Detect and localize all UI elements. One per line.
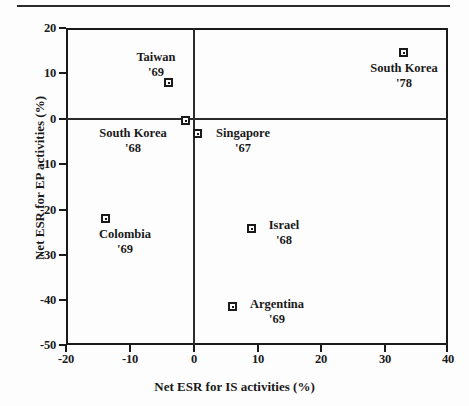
point-label-country: South Korea [370, 61, 438, 76]
y-axis-title: Net ESR for EP activities (%) [32, 48, 48, 308]
x-tick-3 [257, 345, 259, 352]
top-horizontal-rule [17, 5, 450, 7]
point-label-year: '68 [99, 141, 167, 156]
x-tick-label-5: 30 [365, 352, 405, 367]
data-point-south-korea-78 [399, 48, 408, 57]
point-label-argentina-69: Argentina '69 [250, 297, 304, 327]
data-point-israel-68 [247, 224, 256, 233]
point-label-year: '69 [250, 312, 304, 327]
data-point-south-korea-68 [181, 116, 190, 125]
x-tick-6 [446, 345, 448, 352]
x-axis-title: Net ESR for IS activities (%) [0, 379, 469, 395]
x-tick-1 [129, 345, 131, 352]
x-tick-4 [320, 345, 322, 352]
x-tick-5 [384, 345, 386, 352]
y-tick-6 [59, 299, 66, 301]
point-label-year: '69 [99, 242, 151, 257]
x-tick-label-3: 10 [238, 352, 278, 367]
point-label-year: '78 [370, 76, 438, 91]
scatter-plot-figure: -20 -10 0 10 20 30 40 20 10 0 -10 -20 -3… [0, 0, 469, 406]
zero-line-vertical [193, 28, 195, 345]
point-label-israel-68: Israel '68 [269, 218, 300, 248]
point-label-country: Singapore [216, 126, 270, 141]
y-tick-label-7: -50 [22, 338, 56, 353]
zero-line-horizontal [66, 118, 448, 120]
x-tick-label-1: -10 [110, 352, 150, 367]
x-tick-label-6: 40 [428, 352, 468, 367]
point-label-country: Colombia [99, 227, 151, 242]
x-tick-label-4: 20 [301, 352, 341, 367]
point-label-country: Argentina [250, 297, 304, 312]
y-tick-4 [59, 209, 66, 211]
point-label-singapore-67: Singapore '67 [216, 126, 270, 156]
point-label-south-korea-78: South Korea '78 [370, 61, 438, 91]
x-tick-label-0: -20 [46, 352, 86, 367]
point-label-year: '68 [269, 233, 300, 248]
point-label-colombia-69: Colombia '69 [99, 227, 151, 257]
y-tick-0 [59, 27, 66, 29]
point-label-taiwan-69: Taiwan '69 [136, 50, 175, 80]
y-tick-5 [59, 254, 66, 256]
data-point-colombia-69 [101, 214, 110, 223]
x-tick-label-2: 0 [174, 352, 214, 367]
x-tick-2 [193, 345, 195, 352]
data-point-argentina-69 [228, 302, 237, 311]
point-label-country: Israel [269, 218, 300, 233]
x-tick-0 [65, 345, 67, 352]
point-label-country: South Korea [99, 126, 167, 141]
point-label-year: '67 [216, 141, 270, 156]
y-tick-3 [59, 163, 66, 165]
y-tick-1 [59, 72, 66, 74]
point-label-country: Taiwan [136, 50, 175, 65]
y-tick-7 [59, 344, 66, 346]
y-tick-label-0: 20 [22, 21, 56, 36]
point-label-south-korea-68: South Korea '68 [99, 126, 167, 156]
point-label-year: '69 [136, 65, 175, 80]
y-tick-2 [59, 118, 66, 120]
data-point-singapore-67 [193, 129, 202, 138]
